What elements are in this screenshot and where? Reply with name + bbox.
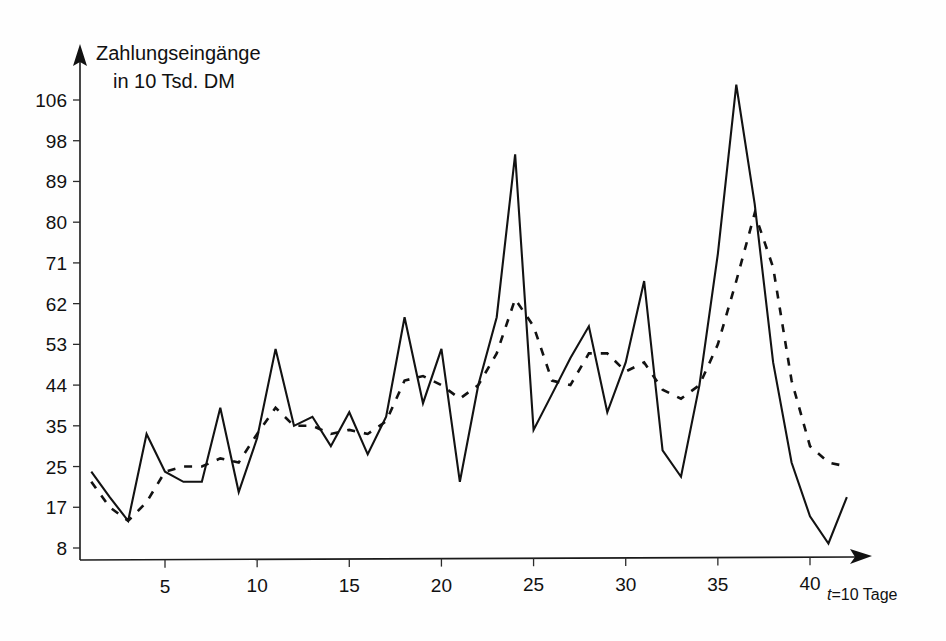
y-axis-tick-label: 8 (56, 538, 67, 559)
y-axis-tick-label: 35 (46, 416, 67, 437)
x-axis-caption-rest: =10 Tage (831, 586, 897, 603)
y-axis-tick-label: 44 (46, 375, 68, 396)
chart-title-line2: in 10 Tsd. DM (113, 70, 235, 92)
x-axis-caption: t=10 Tage (827, 586, 898, 603)
y-axis-tick-label: 98 (46, 131, 67, 152)
x-axis-tick-label: 30 (615, 574, 636, 595)
y-axis-ticks: 817253544536271808998106 (35, 90, 80, 559)
y-axis-tick-label: 80 (46, 212, 67, 233)
x-axis-line (80, 557, 855, 560)
y-axis-tick-label: 89 (46, 171, 67, 192)
y-axis-tick-label: 106 (35, 90, 67, 111)
y-axis-tick-label: 53 (46, 334, 67, 355)
y-axis-tick-label: 17 (46, 497, 67, 518)
series-line-solid (91, 85, 847, 544)
y-axis-tick-label: 71 (46, 253, 67, 274)
x-axis-tick-label: 10 (247, 575, 268, 596)
y-axis-tick-label: 25 (46, 457, 67, 478)
x-axis-tick-label: 15 (339, 575, 360, 596)
x-axis-tick-label: 5 (160, 576, 171, 597)
x-axis-ticks: 510152025303540 (160, 557, 821, 596)
x-axis-tick-label: 35 (707, 574, 728, 595)
line-chart: 817253544536271808998106 510152025303540… (0, 0, 946, 641)
y-axis-tick-label: 62 (46, 294, 67, 315)
x-axis-tick-label: 40 (799, 573, 820, 594)
x-axis-tick-label: 20 (431, 575, 452, 596)
chart-title-line1: Zahlungseingänge (96, 42, 261, 64)
chart-page: 817253544536271808998106 510152025303540… (0, 0, 946, 641)
x-axis-tick-label: 25 (523, 574, 544, 595)
axes-group (73, 44, 872, 564)
